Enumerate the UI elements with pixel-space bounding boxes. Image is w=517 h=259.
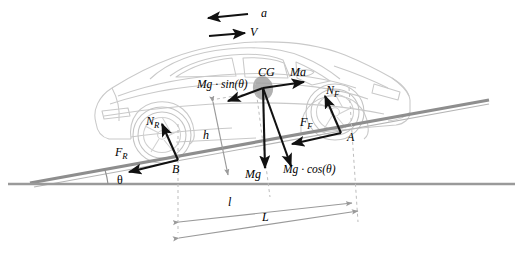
label-FR-subscript: R (122, 151, 127, 161)
label-friction-rear: FR (115, 146, 128, 161)
label-NR-subscript: R (154, 120, 159, 130)
label-NF-subscript: F (334, 89, 339, 99)
label-normal-force-front: NF (326, 84, 339, 99)
vector-velocity (209, 33, 245, 36)
label-height-h: h (203, 129, 209, 141)
label-NR-base: N (146, 114, 154, 128)
vector-Mg (263, 88, 265, 168)
label-Mg-cos-theta: Mg · cos(θ) (283, 164, 336, 176)
label-inertial-force-Ma: Ma (290, 66, 306, 78)
label-cg: CG (258, 66, 275, 78)
label-contact-point-B: B (172, 163, 179, 175)
label-distance-l: l (228, 196, 231, 208)
vector-acceleration (208, 14, 248, 18)
incline-surface-edge (34, 104, 489, 187)
label-acceleration: a (261, 7, 267, 19)
label-Mg: Mg (245, 168, 261, 180)
label-FF-subscript: F (307, 121, 312, 131)
vector-N-rear (162, 124, 178, 160)
motion-vectors (208, 14, 248, 36)
label-velocity: V (250, 26, 257, 38)
vector-Mg-cos (263, 88, 291, 166)
incline-angle-arc (105, 170, 108, 184)
physics-diagram-svg (0, 0, 517, 259)
label-incline-angle-theta: θ (117, 174, 123, 186)
label-distance-L: L (262, 211, 269, 223)
label-contact-point-A: A (347, 131, 354, 143)
label-Mg-sin-theta: Mg · sin(θ) (197, 79, 248, 91)
dimension-height-h (213, 102, 228, 175)
label-friction-front: FF (300, 116, 313, 131)
label-normal-force-rear: NR (146, 115, 159, 130)
diagram-canvas: a V CG Ma Mg · sin(θ) Mg · cos(θ) Mg NF … (0, 0, 517, 259)
label-NF-base: N (326, 83, 334, 97)
